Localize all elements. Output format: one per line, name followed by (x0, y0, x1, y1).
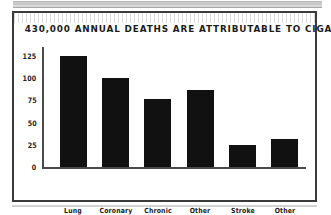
x-axis-line (42, 167, 306, 169)
y-tick-label: 25 (28, 140, 37, 149)
bar (102, 78, 129, 167)
plot-area: 0255075100125 Lung CancerCoronary Heart … (42, 47, 306, 169)
scan-speckle (14, 13, 315, 23)
y-tick-label: 125 (23, 51, 37, 60)
scan-top-band-right-gap (322, 0, 331, 9)
scan-top-band (0, 0, 331, 9)
bar (144, 99, 171, 167)
bar (271, 139, 298, 167)
y-tick-label: 75 (28, 96, 37, 105)
chart-frame: 430,000 ANNUAL DEATHS ARE ATTRIBUTABLE T… (12, 11, 317, 202)
y-tick-label: 100 (23, 74, 37, 83)
category-label: Other Cancers (258, 207, 313, 215)
y-tick-label: 50 (28, 118, 37, 127)
chart-title: 430,000 ANNUAL DEATHS ARE ATTRIBUTABLE T… (25, 23, 309, 34)
bar (60, 56, 87, 167)
bar (229, 145, 256, 167)
scan-top-band-left-gap (0, 0, 13, 9)
y-tick-label: 0 (32, 163, 37, 172)
bar (187, 90, 214, 167)
y-axis-line (42, 47, 44, 169)
